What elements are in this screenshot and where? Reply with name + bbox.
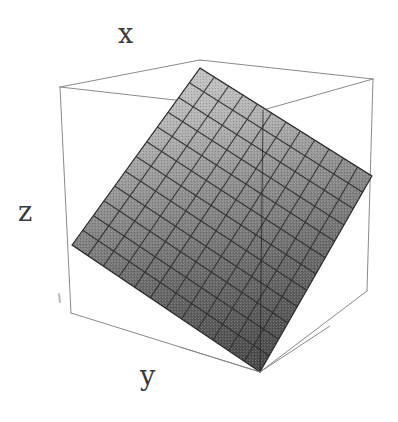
box-edge-vertical-left xyxy=(60,87,71,313)
box-edge-top-left xyxy=(60,60,200,87)
box-edge-vertical-right xyxy=(367,79,373,291)
axis-label-x: x xyxy=(118,20,133,47)
plot-canvas xyxy=(0,0,398,422)
surface-mesh xyxy=(72,68,372,372)
z-axis-tick-mark xyxy=(59,294,60,302)
axis-label-z: z xyxy=(18,198,32,225)
surface-plot-figure: x z y xyxy=(0,0,398,422)
axis-label-y: y xyxy=(140,362,155,389)
box-edge-top-right xyxy=(200,60,373,79)
box-edge-top-front-right xyxy=(263,79,373,110)
